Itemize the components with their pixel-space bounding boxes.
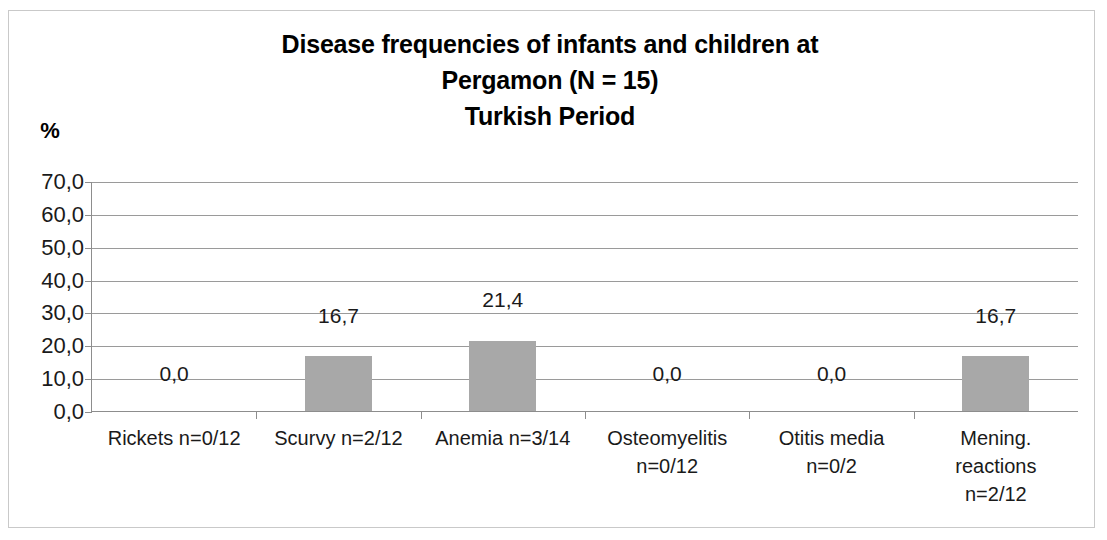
gridline-70 [92, 182, 1078, 183]
y-tick-label-70: 70,0 [8, 169, 84, 195]
y-tick-label-10: 10,0 [8, 366, 84, 392]
plot-area: 0,0 16,7 21,4 0,0 0,0 16,7 [92, 182, 1078, 412]
bar-scurvy[interactable] [305, 356, 372, 411]
value-label-anemia: 21,4 [482, 288, 523, 312]
y-tick-label-0: 0,0 [8, 399, 84, 425]
y-tick-mark-40 [85, 281, 92, 282]
y-tick-mark-0 [85, 412, 92, 413]
y-tick-mark-10 [85, 379, 92, 380]
gridline-30 [92, 313, 1078, 314]
x-tick-mark-2 [421, 412, 422, 419]
y-tick-label-60: 60,0 [8, 202, 84, 228]
y-tick-label-20: 20,0 [8, 333, 84, 359]
x-tick-mark-3 [585, 412, 586, 419]
gridline-10 [92, 379, 1078, 380]
y-tick-mark-20 [85, 346, 92, 347]
y-tick-label-40: 40,0 [8, 268, 84, 294]
x-tick-mark-1 [256, 412, 257, 419]
bar-anemia[interactable] [469, 341, 536, 411]
y-tick-label-50: 50,0 [8, 235, 84, 261]
x-tick-mark-5 [914, 412, 915, 419]
y-tick-mark-50 [85, 248, 92, 249]
chart-title-line-2: Pergamon (N = 15) [120, 62, 980, 98]
chart-title: Disease frequencies of infants and child… [120, 26, 980, 134]
category-label-mening-reactions: Mening. reactions n=2/12 [914, 424, 1078, 508]
value-label-rickets: 0,0 [160, 362, 189, 386]
value-label-osteomyelitis: 0,0 [653, 362, 682, 386]
y-axis-unit-label: % [28, 118, 72, 144]
y-tick-mark-70 [85, 182, 92, 183]
value-label-mening-reactions: 16,7 [975, 304, 1016, 328]
chart-title-line-3: Turkish Period [120, 98, 980, 134]
x-axis-category-labels: Rickets n=0/12 Scurvy n=2/12 Anemia n=3/… [92, 424, 1078, 524]
x-tick-mark-4 [749, 412, 750, 419]
gridline-20 [92, 346, 1078, 347]
category-label-osteomyelitis: Osteomyelitis n=0/12 [585, 424, 749, 480]
chart-title-line-1: Disease frequencies of infants and child… [120, 26, 980, 62]
chart-container: Disease frequencies of infants and child… [0, 0, 1107, 540]
gridline-60 [92, 215, 1078, 216]
y-axis-tick-labels: 70,0 60,0 50,0 40,0 30,0 20,0 10,0 0,0 [0, 182, 84, 412]
category-label-otitis-media: Otitis media n=0/2 [749, 424, 913, 480]
gridline-40 [92, 281, 1078, 282]
category-label-anemia: Anemia n=3/14 [421, 424, 585, 452]
gridline-50 [92, 248, 1078, 249]
value-label-otitis-media: 0,0 [817, 362, 846, 386]
bar-mening-reactions[interactable] [962, 356, 1029, 411]
y-tick-mark-60 [85, 215, 92, 216]
category-label-scurvy: Scurvy n=2/12 [256, 424, 420, 452]
category-label-rickets: Rickets n=0/12 [92, 424, 256, 452]
value-label-scurvy: 16,7 [318, 304, 359, 328]
y-tick-mark-30 [85, 313, 92, 314]
y-tick-label-30: 30,0 [8, 300, 84, 326]
